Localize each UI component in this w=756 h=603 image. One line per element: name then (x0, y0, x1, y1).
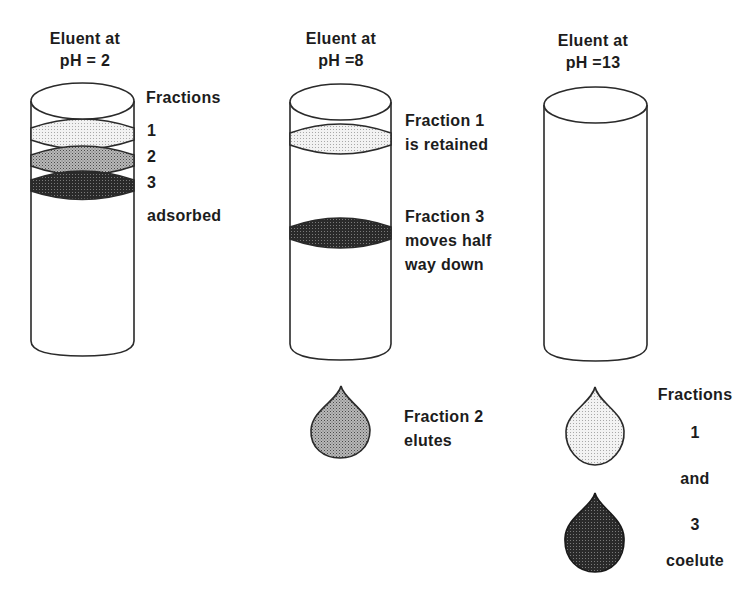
label-coelute-fractions: Fractions (640, 384, 750, 406)
band-fraction-3 (31, 171, 134, 200)
label-fraction-2-elutes-a: Fraction 2 (404, 406, 483, 428)
column-1-header-line1: Eluent at (30, 28, 140, 50)
column-ph13 (544, 87, 647, 361)
band-fraction-3 (290, 218, 391, 248)
column-1-header-line2: pH = 2 (30, 50, 140, 72)
label-fraction-3: 3 (147, 172, 156, 194)
column-top (31, 83, 134, 119)
band-fraction-1 (290, 124, 391, 154)
column-top (544, 87, 647, 123)
label-adsorbed: adsorbed (147, 205, 221, 227)
column-2-header-line1: Eluent at (286, 28, 396, 50)
label-fraction-1-retained-a: Fraction 1 (405, 110, 484, 132)
column-3-header-line2: pH =13 (538, 52, 648, 74)
label-coelute-3: 3 (640, 514, 750, 536)
label-fraction-3-moves-a: Fraction 3 (405, 206, 484, 228)
column-2-header-line2: pH =8 (286, 50, 396, 72)
column-ph8 (290, 84, 391, 360)
label-coelute-text: coelute (640, 550, 750, 572)
label-coelute-1: 1 (640, 422, 750, 444)
column-top (290, 84, 391, 120)
label-fractions: Fractions (146, 87, 221, 109)
label-fraction-1: 1 (147, 120, 156, 142)
label-fraction-2: 2 (147, 146, 156, 168)
label-fraction-3-moves-c: way down (405, 254, 484, 276)
label-fraction-1-retained-b: is retained (405, 134, 488, 156)
column-3-header-line1: Eluent at (538, 30, 648, 52)
band-fraction-1 (31, 119, 134, 149)
label-fraction-3-moves-b: moves half (405, 230, 492, 252)
chromatography-diagram (0, 0, 756, 603)
column-ph2 (31, 83, 134, 356)
drop-fraction-1 (566, 387, 624, 465)
label-fraction-2-elutes-b: elutes (404, 430, 452, 452)
drop-fraction-2 (311, 386, 370, 458)
drop-fraction-3 (565, 493, 624, 572)
label-coelute-and: and (640, 468, 750, 490)
